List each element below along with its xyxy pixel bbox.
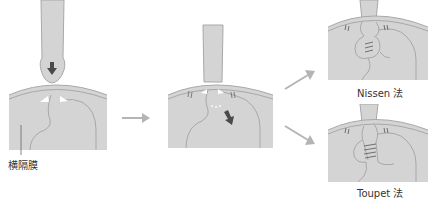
flow-arrow-2 [283,68,317,92]
nissen-label: Nissen 法 [357,85,403,100]
panel-hernia [0,0,115,160]
toupet-label: Toupet 法 [357,185,403,199]
esophagus [203,25,223,82]
flow-arrow-1 [120,112,152,124]
panel-reduced [168,0,278,150]
flow-arrow-3 [283,123,317,147]
panel-nissen [328,0,428,82]
diaphragm-label: 横隔膜 [8,157,38,172]
panel-toupet [328,104,428,184]
